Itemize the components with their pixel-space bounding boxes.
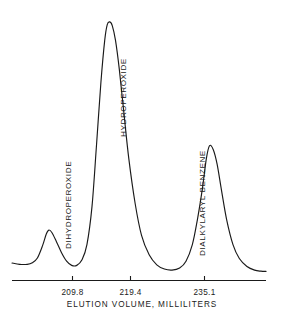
x-axis-tick-label-2: 219.4 — [119, 288, 141, 297]
detector-response-trace — [12, 22, 266, 272]
peak-label-hydroperoxide: HYDROPEROXIDE — [119, 58, 128, 137]
chromatogram-plot: 209.8 219.4 235.1 ELUTION VOLUME, MILLIL… — [0, 0, 284, 317]
x-axis-title: ELUTION VOLUME, MILLILITERS — [67, 300, 217, 309]
peak-label-dihydroperoxide: DIHYDROPEROXIDE — [64, 161, 73, 249]
x-axis-tick-label-1: 209.8 — [61, 288, 83, 297]
peak-label-dialkylaryl-benzene: DIALKYLARYL BENZENE — [198, 150, 207, 256]
x-axis-group — [12, 276, 266, 281]
chromatogram-figure: 209.8 219.4 235.1 ELUTION VOLUME, MILLIL… — [0, 0, 284, 317]
x-axis-tick-labels: 209.8 219.4 235.1 — [61, 288, 215, 297]
x-axis-tick-label-3: 235.1 — [193, 288, 215, 297]
trace-group — [12, 22, 266, 272]
peak-annotations: DIHYDROPEROXIDE HYDROPEROXIDE DIALKYLARY… — [64, 58, 207, 256]
